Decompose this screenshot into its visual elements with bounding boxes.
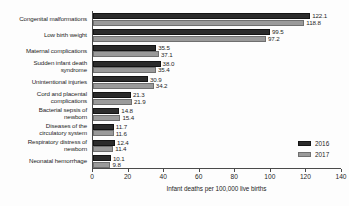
bar-value-label: 118.8 (306, 20, 321, 26)
x-tick-label: 40 (159, 173, 166, 181)
x-tick (270, 169, 271, 172)
bar-2017 (93, 36, 266, 42)
bar-2017 (93, 51, 159, 57)
bar-2017 (93, 67, 156, 73)
x-tick-label: 60 (195, 173, 202, 181)
bar-2016 (93, 155, 111, 161)
x-tick-label: 0 (90, 173, 94, 181)
bar-2016 (93, 140, 115, 146)
bar-group: 38.035.4 (93, 58, 341, 74)
bar-2017 (93, 162, 110, 168)
bar-2016 (93, 124, 114, 130)
bar-group: 122.1118.8 (93, 11, 341, 27)
bar-2017 (93, 146, 113, 152)
x-tick-label: 100 (264, 173, 275, 181)
legend-label-2016: 2016 (315, 140, 329, 147)
x-tick (128, 169, 129, 172)
bar-group: 21.321.9 (93, 90, 341, 106)
bar-2016 (93, 76, 148, 82)
bar-group: 99.597.2 (93, 27, 341, 43)
bar-2016 (93, 29, 270, 35)
x-tick-label: 140 (335, 173, 346, 181)
y-axis-label-8: Respiratory distress of newborn (28, 138, 87, 152)
x-tick (92, 169, 93, 172)
bar-value-label: 35.4 (158, 67, 170, 73)
bar-2016 (93, 92, 131, 98)
bar-group: 14.815.4 (93, 106, 341, 122)
legend-label-2017: 2017 (315, 151, 329, 158)
x-axis-title: Infant deaths per 100,000 live births (92, 185, 341, 192)
legend-item-2017: 2017 (298, 150, 329, 159)
y-axis-label-3: Sudden infant death syndrome (34, 59, 88, 73)
bar-2016 (93, 13, 310, 19)
x-tick (341, 169, 342, 172)
y-axis-label-2: Maternal complications (26, 47, 87, 54)
bar-2016 (93, 45, 156, 51)
bar-value-label: 9.8 (112, 162, 120, 168)
bar-value-label: 11.6 (116, 131, 127, 137)
legend-swatch-2017-icon (298, 152, 311, 157)
legend: 2016 2017 (298, 139, 329, 161)
y-axis-label-6: Bacterial sepsis of newborn (39, 106, 87, 120)
bar-2017 (93, 83, 154, 89)
legend-swatch-2016-icon (298, 141, 311, 146)
bar-value-label: 37.1 (161, 52, 173, 58)
x-tick-label: 20 (124, 173, 131, 181)
x-axis-tick-labels: 020406080100120140 (0, 173, 349, 185)
y-axis-label-5: Cord and placental complications (37, 90, 87, 104)
x-tick-label: 80 (231, 173, 238, 181)
x-tick (199, 169, 200, 172)
legend-item-2016: 2016 (298, 139, 329, 148)
y-axis-category-labels: Congenital malformationsLow birth weight… (0, 11, 90, 169)
y-axis-label-1: Low birth weight (44, 31, 87, 38)
bar-group: 11.711.6 (93, 122, 341, 138)
x-tick-label: 120 (300, 173, 311, 181)
bar-group: 30.934.2 (93, 74, 341, 90)
bar-group: 35.537.1 (93, 43, 341, 59)
x-tick (163, 169, 164, 172)
bar-2017 (93, 130, 114, 136)
bar-value-label: 15.4 (122, 115, 134, 121)
bar-2017 (93, 99, 132, 105)
x-tick (234, 169, 235, 172)
y-axis-label-0: Congenital malformations (19, 15, 87, 22)
x-tick (305, 169, 306, 172)
bar-2017 (93, 115, 120, 121)
bar-value-label: 34.2 (156, 83, 168, 89)
bar-2016 (93, 108, 119, 114)
bar-value-label: 21.9 (134, 99, 146, 105)
y-axis-label-4: Unintentional injuries (32, 78, 87, 85)
bar-chart: Congenital malformationsLow birth weight… (0, 0, 349, 206)
y-axis-label-9: Neonatal hemorrhage (29, 157, 87, 164)
bar-2016 (93, 61, 161, 67)
y-axis-label-7: Diseases of the circulatory system (39, 122, 87, 136)
bar-2017 (93, 20, 304, 26)
bar-value-label: 11.4 (115, 146, 126, 152)
bar-value-label: 97.2 (268, 36, 280, 42)
